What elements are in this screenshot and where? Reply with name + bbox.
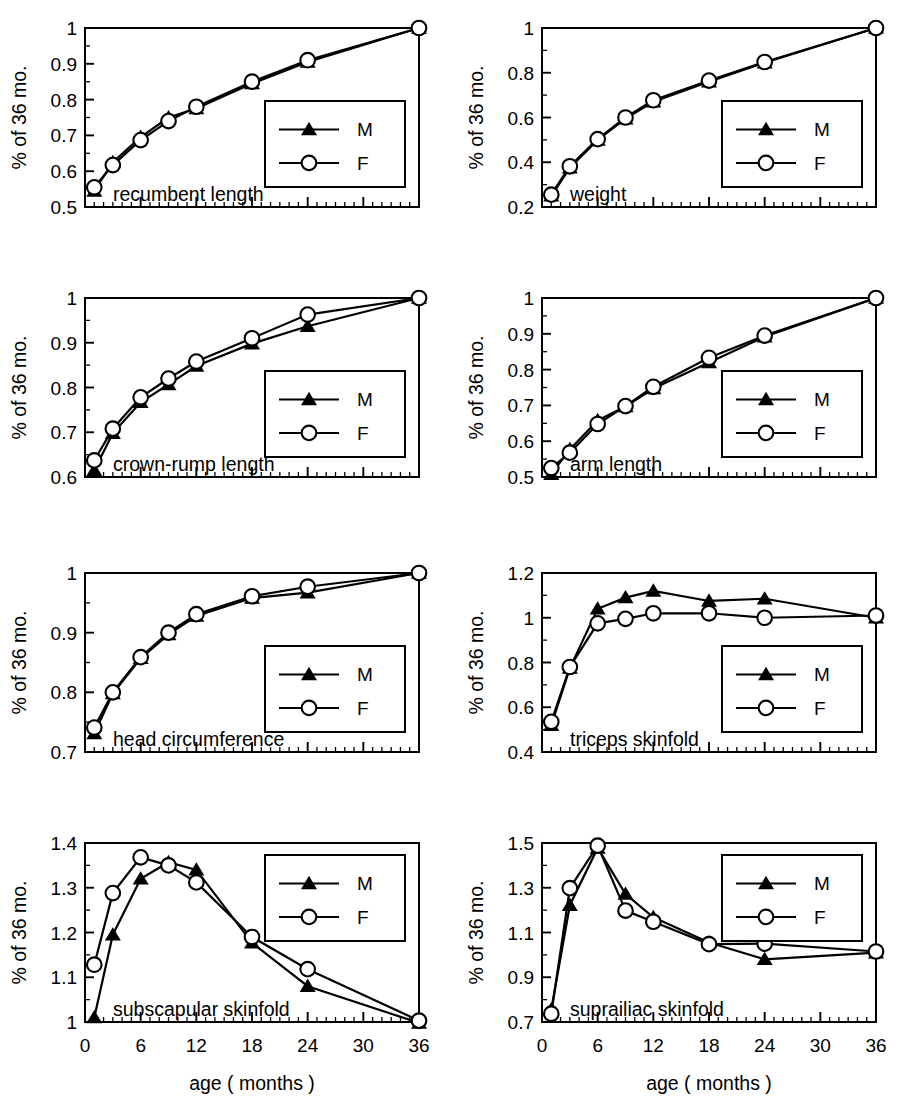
- data-point-female: [646, 93, 661, 108]
- y-tick-label: 1.5: [508, 833, 534, 854]
- data-point-female: [869, 944, 884, 959]
- data-point-female: [412, 291, 427, 306]
- y-tick-label: 0.7: [508, 1012, 534, 1033]
- data-point-male: [133, 871, 149, 884]
- data-point-female: [646, 379, 661, 394]
- y-tick-label: 0.6: [508, 697, 534, 718]
- y-tick-label: 0.2: [508, 197, 534, 218]
- panel-caption: triceps skinfold: [570, 728, 699, 750]
- y-tick-label: 1: [66, 1012, 77, 1033]
- x-tick-label: 24: [754, 1035, 776, 1056]
- data-point-female: [869, 291, 884, 306]
- data-point-female: [133, 850, 148, 865]
- data-point-female: [106, 158, 121, 173]
- data-point-female: [702, 937, 717, 952]
- y-tick-label: 0.6: [51, 161, 77, 182]
- y-tick-label: 0.8: [508, 360, 534, 381]
- data-point-female: [106, 421, 121, 436]
- data-point-female: [161, 371, 176, 386]
- y-tick-label: 1: [523, 288, 534, 309]
- x-tick-label: 36: [408, 1035, 429, 1056]
- data-point-female: [133, 650, 148, 665]
- chart-panel-crown-rump-length: 0.60.70.80.91% of 36 mo.crown-rump lengt…: [0, 270, 457, 545]
- data-point-female: [869, 21, 884, 36]
- data-point-female: [245, 74, 260, 89]
- data-point-female: [161, 114, 176, 129]
- y-tick-label: 0.6: [508, 431, 534, 452]
- data-point-male: [105, 927, 121, 940]
- chart-panel-suprailiac-skinfold: 0.70.91.11.31.5% of 36 mo.suprailiac ski…: [457, 815, 914, 1119]
- legend-label-female: F: [814, 698, 826, 719]
- data-point-female: [245, 331, 260, 346]
- y-tick-label: 1.3: [51, 878, 77, 899]
- chart-panel-arm-length: 0.50.60.70.80.91% of 36 mo.arm lengthMF: [457, 270, 914, 545]
- data-point-male: [618, 886, 634, 899]
- y-tick-label: 1.3: [508, 878, 534, 899]
- x-tick-label: 12: [643, 1035, 664, 1056]
- data-point-female: [87, 720, 102, 735]
- data-point-male: [562, 898, 578, 911]
- y-tick-label: 0.9: [508, 967, 534, 988]
- y-tick-label: 0.5: [51, 197, 77, 218]
- data-point-female: [189, 875, 204, 890]
- panel-caption: crown-rump length: [113, 453, 274, 475]
- y-axis-title: % of 36 mo.: [465, 880, 487, 984]
- chart-panel-recumbent-length: 0.50.60.70.80.91% of 36 mo.recumbent len…: [0, 0, 457, 270]
- legend-label-female: F: [357, 153, 369, 174]
- legend-label-male: M: [357, 664, 373, 685]
- legend: MF: [722, 371, 862, 457]
- legend-label-female: F: [357, 423, 369, 444]
- data-point-female: [412, 566, 427, 581]
- data-point-female: [189, 607, 204, 622]
- data-point-female: [590, 417, 605, 432]
- x-tick-label: 36: [865, 1035, 886, 1056]
- data-point-female: [412, 1013, 427, 1028]
- legend-label-female: F: [814, 907, 826, 928]
- data-point-female: [646, 914, 661, 929]
- data-point-female: [563, 660, 578, 675]
- data-point-male: [757, 591, 773, 604]
- y-tick-label: 0.6: [508, 108, 534, 129]
- x-tick-label: 6: [592, 1035, 603, 1056]
- x-tick-label: 24: [297, 1035, 319, 1056]
- data-point-female: [133, 390, 148, 405]
- y-axis-title: % of 36 mo.: [8, 880, 30, 984]
- data-point-female: [618, 399, 633, 414]
- y-tick-label: 0.7: [51, 742, 77, 763]
- legend-marker-female: [759, 156, 774, 171]
- y-tick-label: 0.8: [508, 63, 534, 84]
- y-tick-label: 0.8: [51, 682, 77, 703]
- panel-caption: head circumference: [113, 728, 284, 750]
- y-tick-label: 0.8: [51, 90, 77, 111]
- y-axis-title: % of 36 mo.: [8, 335, 30, 439]
- data-point-female: [757, 55, 772, 70]
- data-point-female: [702, 350, 717, 365]
- legend-marker-female: [302, 426, 317, 441]
- data-point-female: [544, 461, 559, 476]
- y-tick-label: 0.9: [51, 333, 77, 354]
- x-tick-label: 30: [353, 1035, 374, 1056]
- data-point-female: [757, 328, 772, 343]
- figure-panel-grid: 0.50.60.70.80.91% of 36 mo.recumbent len…: [0, 0, 914, 1119]
- x-tick-label: 30: [810, 1035, 831, 1056]
- y-tick-label: 1: [523, 608, 534, 629]
- data-point-male: [590, 601, 606, 614]
- data-point-female: [300, 307, 315, 322]
- y-tick-label: 1.1: [51, 967, 77, 988]
- data-point-female: [161, 625, 176, 640]
- data-point-female: [106, 685, 121, 700]
- y-tick-label: 1: [66, 563, 77, 584]
- x-axis-title: age ( months ): [189, 1072, 315, 1094]
- data-point-female: [87, 453, 102, 468]
- data-point-female: [869, 608, 884, 623]
- data-point-female: [757, 610, 772, 625]
- legend: MF: [265, 646, 405, 732]
- data-point-female: [87, 957, 102, 972]
- legend-marker-female: [759, 910, 774, 925]
- panel-caption: suprailiac skinfold: [570, 998, 724, 1020]
- y-tick-label: 1.2: [51, 923, 77, 944]
- legend-label-male: M: [814, 664, 830, 685]
- y-axis-title: % of 36 mo.: [8, 65, 30, 169]
- legend: MF: [722, 646, 862, 732]
- y-tick-label: 0.7: [51, 125, 77, 146]
